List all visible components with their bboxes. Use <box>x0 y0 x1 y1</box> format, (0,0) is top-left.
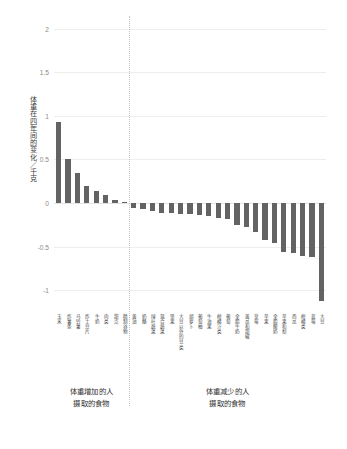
bar <box>122 202 127 203</box>
x-axis-tick-label: 绿叶蔬菜 <box>150 314 155 334</box>
bar <box>150 203 155 211</box>
x-axis-tick-label: 奶酪 <box>140 314 145 324</box>
x-axis-tick-label: 苹果和梨 <box>281 314 286 334</box>
annotation-weight-loss-line2: 摄取的食物 <box>129 398 326 410</box>
bar <box>56 122 61 203</box>
bar <box>187 203 192 214</box>
x-axis-tick-label: 胡萝卜 <box>187 314 192 329</box>
x-axis-tick-label: 葡萄柚 <box>197 314 202 329</box>
y-axis-tick-label: 0.5 <box>40 156 49 163</box>
bar <box>216 203 221 218</box>
x-axis-tick-label: 蓝莓 <box>309 314 314 324</box>
x-axis-tick-label: 黄油 <box>131 314 136 324</box>
y-axis-title: 体重在四年间的变化／千克 <box>21 96 37 226</box>
x-axis-tick-label: 大豆以外的豆类 <box>178 314 183 350</box>
y-axis-tick-label: -0.5 <box>38 243 49 250</box>
x-axis-tick-label: 全脂牛奶 <box>234 314 239 334</box>
bar <box>197 203 202 215</box>
annotation-weight-loss-line1: 体重减少的人 <box>206 387 250 396</box>
annotation-weight-gain-line1: 体重增加的人 <box>70 387 114 396</box>
bar-series <box>54 20 326 312</box>
x-axis-tick-label: 大豆 <box>319 314 324 324</box>
x-axis-tick-label: 柑橘汁类 <box>216 314 221 334</box>
annotation-weight-loss: 体重减少的人 摄取的食物 <box>129 386 326 409</box>
x-axis-tick-label: 草莓 <box>253 314 258 324</box>
bar <box>225 203 230 219</box>
x-axis-tick-label: 牛油果 <box>206 314 211 329</box>
x-axis-tick-label: 葡萄 <box>225 314 230 324</box>
bar <box>112 200 117 203</box>
x-axis-tick-label: 西瓜 <box>291 314 296 324</box>
bar <box>319 203 324 301</box>
x-axis-tick-label: 精制谷物 <box>122 314 127 334</box>
bar <box>103 195 108 203</box>
bar <box>84 186 89 203</box>
bar <box>291 203 296 253</box>
y-axis-tick-label: 0 <box>45 200 49 207</box>
bar <box>94 191 99 203</box>
bar <box>131 203 136 208</box>
bar <box>178 203 183 214</box>
bar <box>272 203 277 243</box>
bar <box>300 203 305 256</box>
plot-area: 21.510.50-0.5-1 <box>54 20 326 312</box>
y-axis-tick-label: 2 <box>45 25 49 32</box>
x-axis-tick-label: 玉米 <box>56 314 61 324</box>
x-axis-tick-label: 坚果 <box>169 314 174 324</box>
x-axis-tick-label: 混合蔬菜 <box>159 314 164 334</box>
bar <box>65 159 70 203</box>
x-axis-tick-label: 牛奶 <box>94 314 99 324</box>
bar <box>309 203 314 257</box>
bar <box>262 203 267 240</box>
y-axis-tick-label: 1.5 <box>40 69 49 76</box>
annotation-weight-gain: 体重增加的人 摄取的食物 <box>54 386 129 409</box>
x-axis-tick-label: 马铃薯 <box>75 314 80 329</box>
bar <box>253 203 258 232</box>
bar <box>281 203 286 252</box>
bar <box>140 203 145 209</box>
bar <box>169 203 174 213</box>
x-axis-tick-label: 柑橘类 <box>300 314 305 329</box>
y-axis-tick-label: -1 <box>43 287 49 294</box>
x-axis-tick-label: 全脂酸奶 <box>272 314 277 334</box>
bar <box>75 173 80 203</box>
y-axis-tick-label: 1 <box>45 112 49 119</box>
group-annotations: 体重增加的人 摄取的食物 体重减少的人 摄取的食物 <box>0 386 347 432</box>
chart-figure: 体重在四年间的变化／千克 21.510.50-0.5-1 玉米炸薯条马铃薯炸土豆… <box>0 0 347 449</box>
bar <box>206 203 211 216</box>
bar <box>244 203 249 227</box>
x-axis-tick-labels: 玉米炸薯条马铃薯炸土豆片牛奶肉类甜点精制谷物黄油奶酪绿叶蔬菜混合蔬菜坚果大豆以外… <box>54 314 326 376</box>
x-axis-tick-label: 肉类 <box>103 314 108 324</box>
annotation-weight-gain-line2: 摄取的食物 <box>54 398 129 410</box>
bar <box>234 203 239 225</box>
x-axis-tick-label: 甜点 <box>112 314 117 324</box>
x-axis-tick-label: 炸薯条 <box>65 314 70 329</box>
x-axis-tick-label: 炸土豆片 <box>84 314 89 334</box>
x-axis-tick-label: 苹果 <box>262 314 267 324</box>
x-axis-tick-label: 黄瓜和甜椒 <box>244 314 249 340</box>
bar <box>159 203 164 213</box>
